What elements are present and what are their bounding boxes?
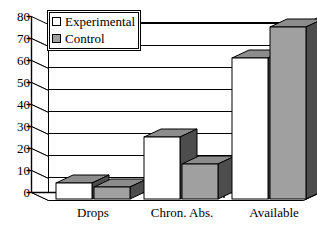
legend-swatch-control bbox=[52, 34, 61, 43]
legend-swatch-experimental bbox=[52, 17, 61, 26]
legend-item-control: Control bbox=[52, 30, 135, 47]
y-axis: 80 70 60 50 40 30 20 10 0 bbox=[0, 0, 30, 229]
legend-label-experimental: Experimental bbox=[65, 15, 135, 28]
bar-chron-abs-control bbox=[182, 156, 235, 199]
legend: Experimental Control bbox=[47, 10, 141, 51]
x-axis: Drops Chron. Abs. Available bbox=[31, 206, 309, 226]
legend-item-experimental: Experimental bbox=[52, 13, 135, 30]
bar-chart: 80 70 60 50 40 30 20 10 0 bbox=[0, 0, 317, 229]
legend-label-control: Control bbox=[65, 32, 105, 45]
bar-available-control bbox=[270, 19, 317, 199]
x-tick-label-chron-abs: Chron. Abs. bbox=[151, 206, 213, 220]
x-tick-label-drops: Drops bbox=[77, 206, 109, 220]
x-tick-label-available: Available bbox=[249, 206, 299, 220]
